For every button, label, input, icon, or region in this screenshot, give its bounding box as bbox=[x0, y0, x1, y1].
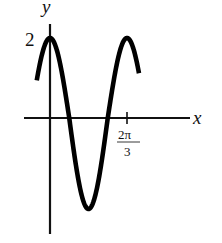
chart: y x 2 2π 3 bbox=[0, 0, 222, 243]
x-axis-label: x bbox=[192, 107, 202, 128]
x-tick-denominator: 3 bbox=[124, 144, 131, 159]
y-tick-label: 2 bbox=[25, 29, 35, 50]
x-tick-numerator: 2π bbox=[118, 127, 132, 142]
y-axis-label: y bbox=[40, 0, 51, 17]
cosine-curve bbox=[37, 38, 139, 209]
